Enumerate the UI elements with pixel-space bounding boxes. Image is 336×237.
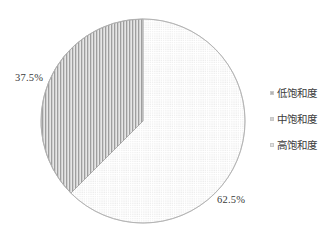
legend-item-medium-saturation[interactable]: 中饱和度	[270, 106, 336, 132]
pie-chart: 37.5% 62.5% 低饱和度 中饱和度 高饱和度	[0, 0, 336, 237]
data-label-low-saturation: 37.5%	[15, 72, 43, 83]
legend-swatch-icon	[270, 91, 274, 95]
legend-swatch-icon	[270, 143, 274, 147]
legend-item-low-saturation[interactable]: 低饱和度	[270, 80, 336, 106]
legend-label-high-saturation: 高饱和度	[277, 140, 317, 151]
data-label-medium-saturation: 62.5%	[217, 194, 245, 205]
legend-swatch-icon	[270, 117, 274, 121]
chart-legend: 低饱和度 中饱和度 高饱和度	[270, 80, 336, 158]
legend-item-high-saturation[interactable]: 高饱和度	[270, 132, 336, 158]
legend-label-medium-saturation: 中饱和度	[277, 114, 317, 125]
legend-label-low-saturation: 低饱和度	[277, 88, 317, 99]
